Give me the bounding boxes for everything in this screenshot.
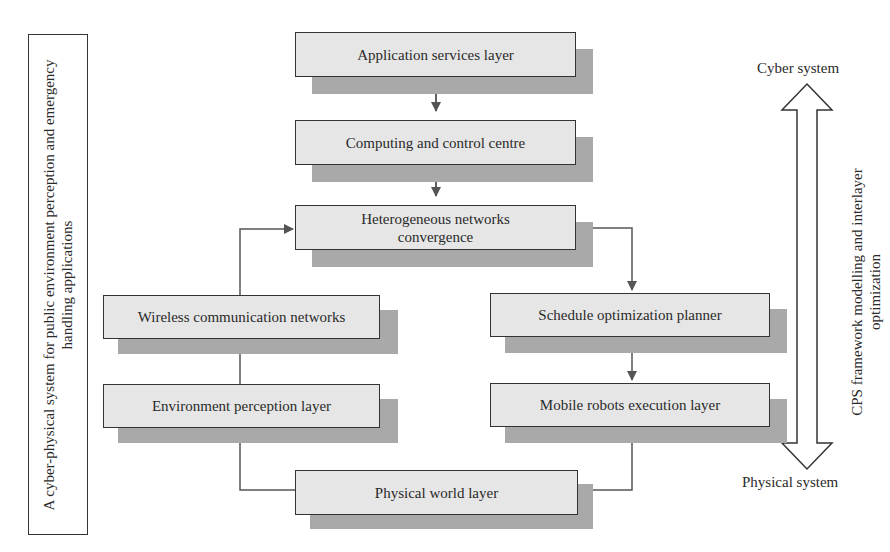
application-services-label: Application services layer xyxy=(295,32,576,77)
double-arrow-icon xyxy=(782,84,832,469)
heterogeneous-networks-label: Heterogeneous networks convergence xyxy=(295,205,576,250)
physical-system-label: Physical system xyxy=(742,474,838,491)
cyber-system-label: Cyber system xyxy=(757,60,839,77)
cps-framework-label: CPS framework modelling and interlayer o… xyxy=(848,142,884,442)
physical-world-label: Physical world layer xyxy=(295,470,578,515)
mobile-robots-label: Mobile robots execution layer xyxy=(490,383,770,427)
wireless-networks-label: Wireless communication networks xyxy=(103,295,380,339)
schedule-planner-label: Schedule optimization planner xyxy=(490,293,770,337)
environment-perception-label: Environment perception layer xyxy=(103,384,380,428)
computing-control-label: Computing and control centre xyxy=(295,120,576,165)
